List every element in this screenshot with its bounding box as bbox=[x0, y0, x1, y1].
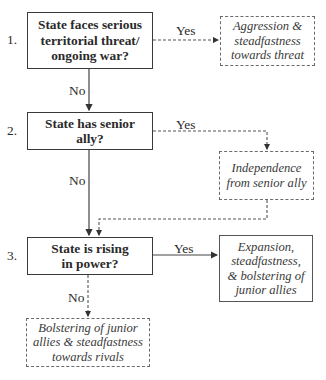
outcome-line: from senior ally bbox=[227, 176, 307, 191]
question-2-line: ally? bbox=[45, 131, 135, 147]
yes-label-3: Yes bbox=[174, 241, 193, 257]
outcome-independence: Independence from senior ally bbox=[219, 151, 314, 200]
question-3-line: State is rising bbox=[51, 241, 128, 257]
outcome-expansion: Expansion, steadfastness, & bolstering o… bbox=[219, 235, 313, 302]
outcome-bolstering: Bolstering of junior allies & steadfastn… bbox=[26, 318, 150, 367]
question-2-line: State has senior bbox=[45, 116, 135, 132]
outcome-aggression: Aggression & steadfastness towards threa… bbox=[220, 16, 315, 66]
outcome-line: towards threat bbox=[231, 48, 304, 63]
outcome-line: Aggression & bbox=[231, 19, 304, 34]
question-1-line: territorial threat/ bbox=[38, 33, 142, 49]
outcome-line: Independence bbox=[227, 161, 307, 176]
outcome-line: Bolstering of junior bbox=[33, 321, 143, 336]
no-label-1: No bbox=[69, 83, 85, 99]
question-box-3: State is rising in power? bbox=[27, 237, 153, 275]
outcome-line: towards rivals bbox=[33, 350, 143, 365]
yes-label-2: Yes bbox=[176, 117, 195, 133]
outcome-line: allies & steadfastness bbox=[33, 335, 143, 350]
outcome-line: steadfastness, bbox=[228, 254, 305, 269]
step-2-number: 2. bbox=[7, 123, 17, 139]
no-label-3: No bbox=[68, 290, 84, 306]
question-box-1: State faces serious territorial threat/ … bbox=[27, 12, 153, 69]
question-1-line: State faces serious bbox=[38, 17, 142, 33]
step-1-number: 1. bbox=[7, 32, 17, 48]
outcome-line: junior allies bbox=[228, 283, 305, 298]
outcome-line: Expansion, bbox=[228, 240, 305, 255]
question-box-2: State has senior ally? bbox=[27, 112, 153, 150]
question-3-line: in power? bbox=[51, 256, 128, 272]
yes-label-1: Yes bbox=[176, 23, 195, 39]
outcome-line: steadfastness bbox=[231, 34, 304, 49]
step-3-number: 3. bbox=[7, 248, 17, 264]
question-1-line: ongoing war? bbox=[38, 48, 142, 64]
outcome-line: & bolstering of bbox=[228, 269, 305, 284]
no-label-2: No bbox=[69, 173, 85, 189]
